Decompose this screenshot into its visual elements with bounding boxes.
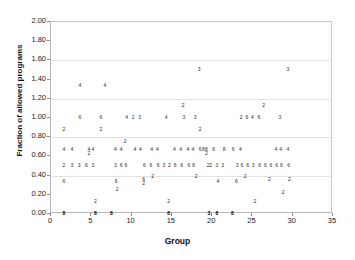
x-axis-tick-mark (251, 213, 252, 216)
gridline (51, 137, 331, 138)
y-axis-tick-mark (47, 175, 50, 176)
gridline (51, 99, 331, 100)
data-point: 4 (68, 147, 76, 152)
y-axis-tick-mark (47, 79, 50, 80)
x-axis-tick-label: 10 (119, 216, 143, 225)
x-axis-tick-label: 30 (280, 216, 304, 225)
data-point: 8 (228, 211, 236, 216)
x-axis-tick-mark (131, 213, 132, 216)
data-point: 3 (89, 163, 97, 168)
x-axis-tick-mark (292, 213, 293, 216)
data-point: 2 (192, 174, 200, 179)
x-axis-tick-label: 0 (38, 216, 62, 225)
data-point: 3 (191, 115, 199, 120)
data-point: 2 (149, 174, 157, 179)
data-point: 4 (284, 147, 292, 152)
data-point: 2 (179, 103, 187, 108)
data-point: 2 (251, 199, 259, 204)
data-point: 6 (60, 179, 68, 184)
data-point: 6 (285, 163, 293, 168)
data-point: 2 (265, 177, 273, 182)
data-point: 4 (153, 147, 161, 152)
data-point: 3 (276, 115, 284, 120)
x-axis-tick-label: 15 (159, 216, 183, 225)
data-point: 2 (97, 127, 105, 132)
data-point: 4 (76, 83, 84, 88)
data-point: 3 (195, 67, 203, 72)
y-axis-tick-mark (47, 136, 50, 137)
y-axis-tick-mark (47, 155, 50, 156)
y-axis-tick-label: 0.80 (0, 132, 46, 140)
data-point: 6 (190, 163, 198, 168)
y-axis-tick-label: 1.00 (0, 113, 46, 121)
scatter-chart: 8624234366244382624484362462642434626642… (0, 0, 355, 260)
data-point: 6 (210, 147, 218, 152)
y-axis-tick-mark (47, 98, 50, 99)
data-point: 3 (180, 115, 188, 120)
y-axis-tick-mark (47, 40, 50, 41)
data-point: 6 (97, 115, 105, 120)
data-point: 2 (121, 139, 129, 144)
y-axis-tick-label: 1.40 (0, 75, 46, 83)
y-axis-tick-mark (47, 117, 50, 118)
data-point: 2 (279, 190, 287, 195)
x-axis-title: Group (0, 236, 355, 246)
data-point: 4 (136, 147, 144, 152)
y-axis-tick-label: 0.40 (0, 171, 46, 179)
data-point: 2 (165, 199, 173, 204)
x-axis-tick-label: 20 (199, 216, 223, 225)
data-point: 4 (117, 147, 125, 152)
y-axis-tick-label: 2.00 (0, 17, 46, 25)
y-axis-tick-label: 1.60 (0, 55, 46, 63)
data-point: 6 (255, 115, 263, 120)
data-point: 8 (107, 211, 115, 216)
x-axis-tick-mark (90, 213, 91, 216)
data-point: 2 (113, 187, 121, 192)
data-point: 2 (60, 127, 68, 132)
data-point: 2 (285, 177, 293, 182)
data-point: 2 (91, 199, 99, 204)
data-point: 6 (232, 179, 240, 184)
plot-area: 8624234366244382624484362462642434626642… (50, 21, 332, 213)
x-axis-tick-mark (211, 213, 212, 216)
x-axis-tick-label: 25 (239, 216, 263, 225)
data-point: 4 (236, 147, 244, 152)
data-point: 2 (196, 127, 204, 132)
data-point: 2 (60, 163, 68, 168)
y-axis-tick-mark (47, 194, 50, 195)
data-point: 4 (101, 83, 109, 88)
data-point: 4 (214, 179, 222, 184)
y-axis-tick-label: 1.20 (0, 94, 46, 102)
data-point: 6 (112, 179, 120, 184)
data-point: 6 (76, 115, 84, 120)
x-axis-tick-mark (50, 213, 51, 216)
y-axis-tick-label: 1.80 (0, 36, 46, 44)
data-point: 3 (136, 115, 144, 120)
y-axis-tick-label: 0.20 (0, 190, 46, 198)
data-point: 2 (85, 151, 93, 156)
data-point: 2 (203, 151, 211, 156)
y-axis-tick-mark (47, 21, 50, 22)
data-point: 2 (241, 174, 249, 179)
data-point: 3 (219, 163, 227, 168)
data-point: 8 (220, 147, 228, 152)
y-axis-tick-mark (47, 59, 50, 60)
x-axis-tick-mark (332, 213, 333, 216)
y-axis-tick-label: 0.60 (0, 151, 46, 159)
data-point: 4 (60, 147, 68, 152)
x-axis-tick-mark (171, 213, 172, 216)
x-axis-tick-label: 35 (320, 216, 344, 225)
data-point: 2 (140, 181, 148, 186)
data-point: 6 (122, 163, 130, 168)
data-point: 4 (162, 115, 170, 120)
x-axis-tick-label: 5 (78, 216, 102, 225)
data-point: 3 (284, 67, 292, 72)
gridline (51, 60, 331, 61)
data-point: 4 (89, 147, 97, 152)
data-point: 2 (260, 103, 268, 108)
